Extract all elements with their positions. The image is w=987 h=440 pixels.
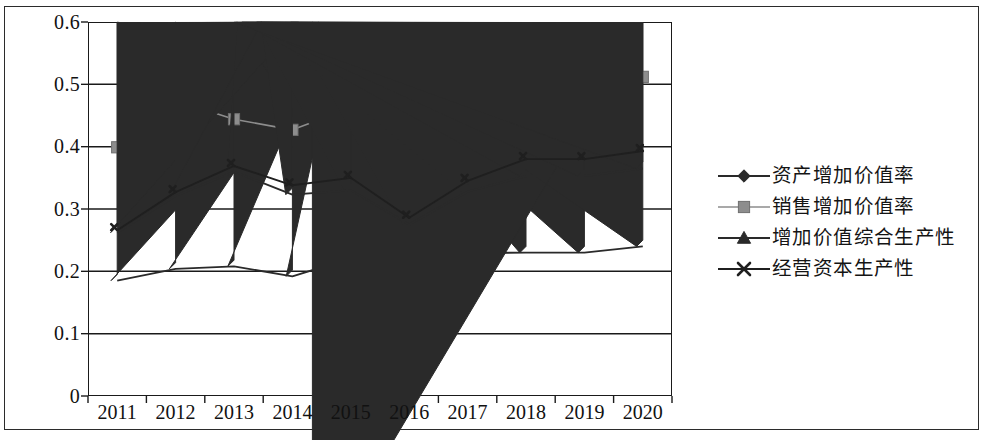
triangle-marker-icon bbox=[716, 226, 772, 250]
diamond-marker-icon bbox=[716, 164, 772, 188]
legend-item[interactable]: 经营资本生产性 bbox=[716, 253, 978, 284]
y-axis-tick-label: 0.1 bbox=[54, 323, 80, 343]
data-point-marker bbox=[738, 169, 750, 181]
y-axis-tick-label: 0.2 bbox=[54, 261, 80, 281]
legend-item-label: 经营资本生产性 bbox=[772, 258, 915, 280]
legend-item-label: 增加价值综合生产性 bbox=[772, 227, 956, 249]
x-axis-labels: 2011201220132014201520162017201820192020 bbox=[88, 400, 672, 430]
x-axis-tick-label: 2014 bbox=[263, 400, 321, 424]
x-axis-tick-label: 2012 bbox=[146, 400, 204, 424]
y-axis-tick-label: 0 bbox=[70, 386, 80, 406]
x-axis-tick-label: 2017 bbox=[438, 400, 496, 424]
y-axis-labels: 0.6 0.5 0.4 0.3 0.2 0.1 0 bbox=[14, 22, 80, 396]
plot-canvas bbox=[88, 22, 672, 396]
plot-area bbox=[88, 22, 672, 396]
legend-item[interactable]: 增加价值综合生产性 bbox=[716, 222, 978, 253]
x-axis-tick-label: 2019 bbox=[555, 400, 613, 424]
legend-item-label: 销售增加价值率 bbox=[772, 196, 915, 218]
y-axis-tick-label: 0.3 bbox=[54, 199, 80, 219]
x-axis-tick-label: 2020 bbox=[614, 400, 672, 424]
x-axis-tick-label: 2011 bbox=[88, 400, 146, 424]
legend-item[interactable]: 销售增加价值率 bbox=[716, 191, 978, 222]
legend-item-label: 资产增加价值率 bbox=[772, 165, 915, 187]
legend-item[interactable]: 资产增加价值率 bbox=[716, 160, 978, 191]
x-axis-tick-label: 2015 bbox=[322, 400, 380, 424]
y-axis-tick-label: 0.4 bbox=[54, 136, 80, 156]
x-axis-tick-label: 2016 bbox=[380, 400, 438, 424]
x-axis-tick-label: 2018 bbox=[497, 400, 555, 424]
chart-figure: 0.6 0.5 0.4 0.3 0.2 0.1 0 20112012201320… bbox=[0, 0, 987, 440]
x-axis-tick-label: 2013 bbox=[205, 400, 263, 424]
cross-marker-icon bbox=[716, 257, 772, 281]
y-axis-tick-label: 0.5 bbox=[54, 74, 80, 94]
data-point-marker bbox=[738, 201, 749, 212]
chart-legend: 资产增加价值率销售增加价值率增加价值综合生产性经营资本生产性 bbox=[716, 160, 978, 284]
square-marker-icon bbox=[716, 195, 772, 219]
y-axis-tick-label: 0.6 bbox=[54, 12, 80, 32]
